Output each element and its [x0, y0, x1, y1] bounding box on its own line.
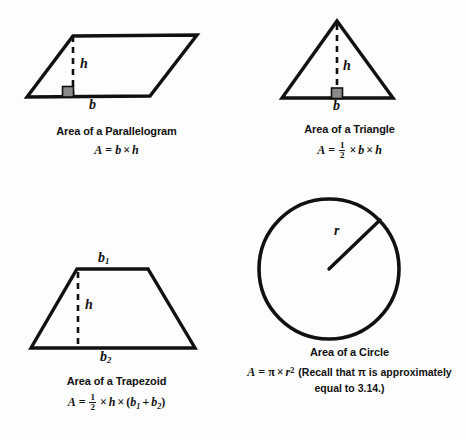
trapezoid-height-label: h [85, 297, 93, 313]
trapezoid-formula: A=12×h×(b1+b2) [0, 393, 233, 414]
triangle-formula: A=12×b×h [233, 141, 466, 160]
formula-symbol-A-c: A [247, 365, 255, 379]
formula-symbol-equals-t: = [328, 143, 335, 157]
trapezoid-caption-title: Area of a Trapezoid [0, 375, 233, 388]
formula-fraction-half-t: 12 [339, 141, 346, 160]
circle-note-line-2: equal to 3.14.) [314, 382, 384, 394]
triangle-caption-title: Area of a Triangle [233, 123, 466, 136]
parallelogram-caption: Area of a Parallelogram A=b×h [0, 125, 233, 158]
trapezoid-bottom-base-letter: b [100, 349, 107, 364]
geometry-formula-sheet: h b Area of a Parallelogram A=b×h h b Ar… [0, 0, 466, 440]
triangle-right-angle-icon [332, 88, 343, 99]
parallelogram-outline [27, 35, 197, 97]
formula-symbol-A-t: A [317, 143, 325, 157]
formula-symbol-A: A [94, 143, 102, 157]
formula-symbol-h: h [132, 143, 139, 157]
figure-parallelogram: h b Area of a Parallelogram A=b×h [0, 25, 233, 180]
trapezoid-outline [31, 269, 195, 348]
formula-symbol-times1-t: × [349, 143, 356, 157]
formula-symbol-h-t: h [375, 143, 382, 157]
trapezoid-top-base-label: b1 [98, 250, 109, 266]
circle-note-row-2: equal to 3.14.) [233, 381, 466, 396]
trapezoid-drawing [0, 250, 233, 360]
formula-symbol-times1-z: × [100, 395, 107, 409]
formula-symbol-plus-z: + [142, 395, 149, 409]
trapezoid-top-base-letter: b [98, 250, 105, 265]
fraction-numerator-t: 1 [339, 141, 346, 150]
figure-trapezoid: b1 h b2 Area of a Trapezoid A=12×h×(b1+b… [0, 250, 233, 440]
circle-caption-title: Area of a Circle [233, 346, 466, 359]
formula-exponent-2-c: 2 [290, 366, 294, 375]
formula-symbol-pi-c: π [268, 365, 275, 379]
circle-drawing [233, 196, 466, 346]
fraction-denominator-z: 2 [89, 402, 96, 412]
parallelogram-drawing [0, 25, 233, 110]
circle-caption: Area of a Circle A=π×r2(Recall that π is… [233, 346, 466, 396]
formula-symbol-h-z: h [109, 395, 116, 409]
parallelogram-right-angle-icon [63, 87, 74, 98]
parallelogram-caption-title: Area of a Parallelogram [0, 125, 233, 138]
formula-symbol-b: b [115, 143, 121, 157]
triangle-base-label: b [333, 98, 340, 114]
formula-subscript-1-z: 1 [136, 402, 140, 411]
circle-radius-label: r [334, 223, 339, 239]
formula-symbol-b-t: b [358, 143, 364, 157]
fraction-denominator-t: 2 [339, 150, 346, 160]
figure-triangle: h b Area of a Triangle A=12×b×h [233, 10, 466, 180]
formula-symbol-times-p: × [123, 143, 130, 157]
formula-fraction-half-z: 12 [89, 393, 96, 412]
triangle-height-label: h [343, 58, 351, 74]
parallelogram-base-label: b [89, 97, 96, 113]
triangle-caption: Area of a Triangle A=12×b×h [233, 123, 466, 160]
fraction-numerator-z: 1 [89, 393, 96, 402]
parallelogram-formula: A=b×h [0, 143, 233, 158]
trapezoid-caption: Area of a Trapezoid A=12×h×(b1+b2) [0, 375, 233, 414]
formula-symbol-equals-p: = [105, 143, 112, 157]
formula-symbol-equals-c: = [258, 365, 265, 379]
formula-symbol-times-c: × [277, 365, 284, 379]
trapezoid-bottom-base-label: b2 [100, 349, 111, 365]
circle-note-line-1: (Recall that π is approximately [298, 366, 451, 378]
parallelogram-height-label: h [80, 56, 88, 72]
trapezoid-bottom-base-subscript: 2 [107, 355, 111, 365]
circle-formula: A=π×r2(Recall that π is approximately [233, 363, 466, 380]
formula-symbol-A-z: A [68, 395, 76, 409]
formula-symbol-times2-t: × [366, 143, 373, 157]
formula-symbol-equals-z: = [79, 395, 86, 409]
figure-circle: r Area of a Circle A=π×r2(Recall that π … [233, 196, 466, 440]
formula-symbol-times2-z: × [118, 395, 125, 409]
formula-symbol-rparen-z: ) [161, 395, 165, 409]
trapezoid-top-base-subscript: 1 [105, 256, 109, 266]
